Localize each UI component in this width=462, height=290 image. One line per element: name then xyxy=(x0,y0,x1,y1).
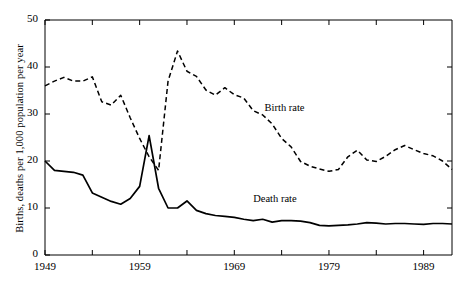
y-tick-label: 0 xyxy=(16,247,38,259)
y-tick-label: 30 xyxy=(16,106,38,118)
x-tick-label: 1989 xyxy=(404,260,444,272)
y-tick-label: 50 xyxy=(16,12,38,24)
x-tick-label: 1959 xyxy=(120,260,160,272)
y-tick-label: 10 xyxy=(16,200,38,212)
x-tick-label: 1969 xyxy=(214,260,254,272)
series-line-death-rate xyxy=(45,136,452,226)
y-tick-label: 20 xyxy=(16,153,38,165)
birth-death-rate-chart: Births, deaths per 1,000 population per … xyxy=(0,0,462,290)
y-tick-label: 40 xyxy=(16,59,38,71)
x-tick-label: 1979 xyxy=(309,260,349,272)
series-annotation-death-rate: Death rate xyxy=(253,193,296,204)
y-axis-title: Births, deaths per 1,000 population per … xyxy=(14,14,25,264)
x-tick-label: 1949 xyxy=(25,260,65,272)
chart-plot-area xyxy=(0,0,462,290)
series-annotation-birth-rate: Birth rate xyxy=(265,102,305,113)
series-line-birth-rate xyxy=(45,51,452,171)
